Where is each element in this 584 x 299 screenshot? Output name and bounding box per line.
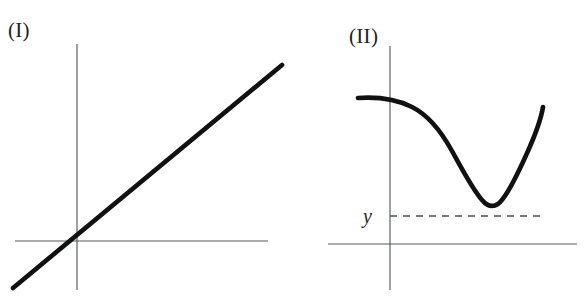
decreasing-then-increasing-curve bbox=[358, 98, 543, 206]
panel-two: (II) y bbox=[292, 0, 584, 299]
linear-function-curve bbox=[13, 65, 282, 288]
figure-root: (I) (II) y bbox=[0, 0, 584, 299]
panel-two-plot bbox=[292, 0, 584, 299]
panel-one: (I) bbox=[0, 0, 292, 299]
panel-one-plot bbox=[0, 0, 292, 299]
